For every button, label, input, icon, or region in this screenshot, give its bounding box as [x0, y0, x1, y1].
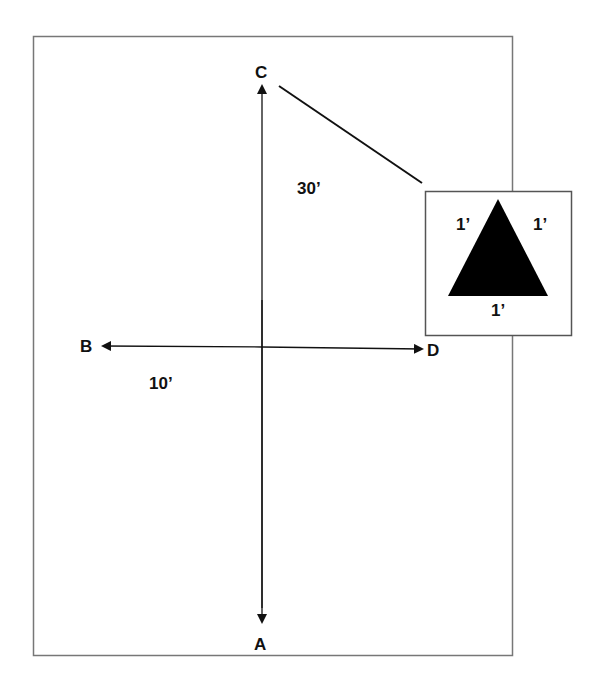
- triangle-side-bottom: 1’: [491, 301, 505, 320]
- dimension-horizontal: 10’: [149, 374, 173, 393]
- callout-leader-line: [279, 86, 422, 183]
- point-label-a: A: [254, 635, 266, 654]
- triangle-side-left: 1’: [456, 215, 470, 234]
- point-label-b: B: [80, 337, 92, 356]
- horizontal-arrow-right: [262, 347, 422, 349]
- point-label-c: C: [255, 63, 267, 82]
- triangle-side-right: 1’: [533, 215, 547, 234]
- dimension-vertical: 30’: [297, 179, 321, 198]
- point-label-d: D: [427, 341, 439, 360]
- diagram-canvas: C A B D 30’ 10’ 1’ 1’ 1’: [0, 0, 599, 689]
- horizontal-arrow-left: [103, 346, 262, 347]
